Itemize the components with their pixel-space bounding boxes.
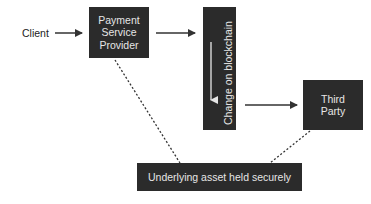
- underlying-asset-label: Underlying asset held securely: [148, 171, 291, 184]
- blockchain-label: Change on blockchain: [222, 21, 234, 125]
- third-party-line-2: Party: [321, 105, 346, 118]
- underlying-asset-box: Underlying asset held securely: [137, 163, 302, 191]
- third-party-line-1: Third: [321, 93, 346, 106]
- third-party-box: Third Party: [303, 80, 363, 130]
